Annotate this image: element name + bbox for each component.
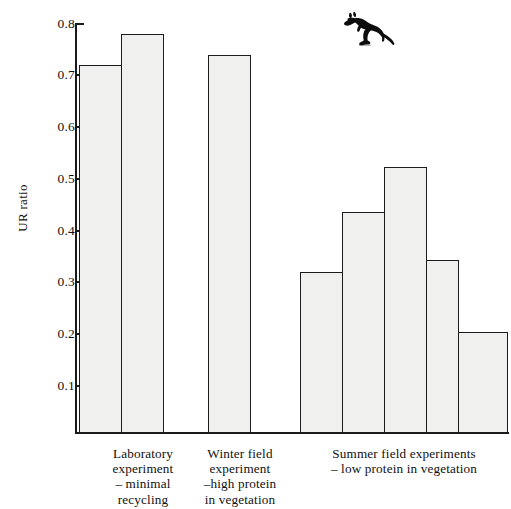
group-caption-winter-field: Winter field experiment –high protein in… — [178, 446, 302, 507]
y-axis-tick-label: 0.4 — [33, 225, 75, 237]
y-axis-tick-label-row: 0.5 — [0, 173, 75, 185]
y-axis-tick-label: 0.2 — [33, 328, 75, 340]
y-axis-tick-label: 0.8 — [33, 18, 75, 30]
y-axis-tick-label: 0.6 — [33, 121, 75, 133]
bar-summer-field-2 — [342, 212, 385, 433]
group-caption-summer-field: Summer field experiments – low protein i… — [298, 446, 510, 476]
bar-summer-field-5 — [458, 332, 508, 433]
y-axis-tick-label-row: 0.3 — [0, 276, 75, 288]
group-caption-line: experiment — [178, 461, 302, 476]
bar-summer-field-4 — [426, 260, 459, 433]
y-axis-tick-label: 0.3 — [33, 276, 75, 288]
y-axis-tick-label-row: 0.2 — [0, 328, 75, 340]
bar-winter-field-1 — [208, 55, 251, 433]
y-axis-tick-label-row: 0.6 — [0, 121, 75, 133]
y-axis-tick — [75, 23, 84, 25]
y-axis-tick-label-row: 0.8 — [0, 18, 75, 30]
bar-chart-figure: 0.8 0.7 0.6 0.5 0.4 0.3 0.2 0.1 UR ratio… — [0, 0, 511, 509]
group-caption-line: Winter field — [178, 446, 302, 461]
group-caption-line: Summer field experiments — [298, 446, 510, 461]
y-axis-line — [75, 24, 77, 433]
y-axis-tick-label-row: 0.7 — [0, 69, 75, 81]
y-axis-tick-label: 0.1 — [33, 380, 75, 392]
group-caption-line: in vegetation — [178, 492, 302, 507]
y-axis-tick-label: 0.5 — [33, 173, 75, 185]
y-axis-tick-label-row: 0.1 — [0, 380, 75, 392]
y-axis-tick-label-row: 0.4 — [0, 225, 75, 237]
y-axis-title: UR ratio — [15, 168, 31, 248]
wallaby-silhouette-icon — [340, 8, 398, 48]
bar-summer-field-3 — [384, 167, 427, 433]
group-caption-line: – low protein in vegetation — [298, 461, 510, 476]
y-axis-tick-label: 0.7 — [33, 69, 75, 81]
bar-laboratory-2 — [121, 34, 164, 433]
bar-summer-field-1 — [300, 272, 343, 433]
group-caption-line: –high protein — [178, 476, 302, 491]
bar-laboratory-1 — [79, 65, 122, 433]
